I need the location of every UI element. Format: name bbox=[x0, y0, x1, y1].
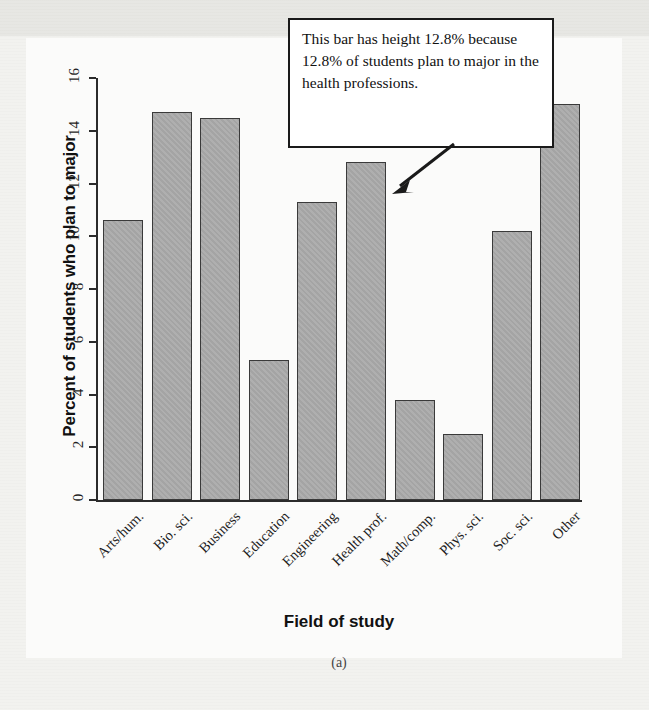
y-axis-tick bbox=[89, 446, 96, 448]
bar bbox=[346, 162, 386, 500]
bar bbox=[152, 112, 192, 500]
y-axis-tick-label: 14 bbox=[38, 120, 82, 137]
y-axis-tick-label: 16 bbox=[38, 67, 82, 84]
y-axis-tick bbox=[89, 130, 96, 132]
y-axis-tick bbox=[89, 77, 96, 79]
arrow-down-left-icon bbox=[380, 140, 460, 202]
bar bbox=[297, 202, 337, 500]
figure-caption: (a) bbox=[96, 655, 582, 671]
y-axis-tick bbox=[89, 288, 96, 290]
y-axis-tick-label: 0 bbox=[38, 489, 82, 506]
y-axis-line bbox=[96, 78, 98, 502]
y-axis-tick-label: 8 bbox=[38, 278, 82, 295]
bar bbox=[492, 231, 532, 500]
y-axis-tick bbox=[89, 183, 96, 185]
y-axis-tick-label: 10 bbox=[38, 225, 82, 242]
y-axis-tick bbox=[89, 341, 96, 343]
bar bbox=[103, 220, 143, 500]
y-axis-tick bbox=[89, 235, 96, 237]
annotation-callout: This bar has height 12.8% because 12.8% … bbox=[288, 18, 554, 148]
annotation-text: This bar has height 12.8% because 12.8% … bbox=[302, 28, 542, 94]
y-axis-tick-label: 6 bbox=[38, 331, 82, 348]
bar bbox=[540, 104, 580, 500]
x-axis-title: Field of study bbox=[96, 612, 582, 632]
bar bbox=[200, 118, 240, 500]
y-axis-tick-label: 4 bbox=[38, 384, 82, 401]
bar-chart-figure: Percent of students who plan to major 02… bbox=[0, 0, 649, 710]
y-axis-tick-label: 2 bbox=[38, 436, 82, 453]
y-axis-tick-label: 12 bbox=[38, 173, 82, 190]
y-axis-tick bbox=[89, 499, 96, 501]
y-axis-tick bbox=[89, 394, 96, 396]
